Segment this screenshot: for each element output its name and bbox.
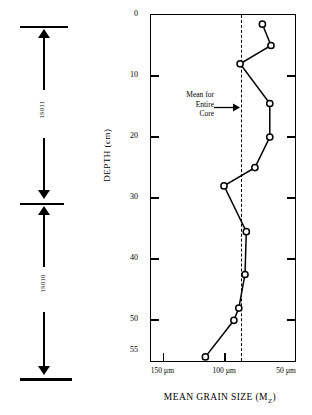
data-point-1 — [268, 42, 274, 48]
data-point-8 — [242, 271, 248, 277]
y-tick-right-20 — [287, 136, 296, 138]
y-tick-30 — [150, 197, 159, 199]
data-point-6 — [221, 183, 227, 189]
x-axis-title-close: ) — [273, 392, 277, 402]
arrowhead-up-lower — [38, 206, 50, 215]
arrowhead-down-lower — [38, 366, 50, 375]
y-axis-title: DEPTH (cm) — [102, 110, 112, 200]
plot-area — [150, 14, 296, 362]
data-point-7 — [243, 229, 249, 235]
core-section-label-lower-text: 1S010 — [39, 274, 46, 292]
data-point-0 — [259, 21, 265, 27]
core-section-label-lower: 1S010 — [12, 280, 72, 287]
x-tick-100 — [224, 353, 226, 362]
data-point-11 — [202, 354, 208, 360]
y-tick-label-20: 20 — [104, 132, 138, 140]
data-series-line — [151, 15, 297, 363]
figure-root: 1S011 1S010 DEPTH (cm) 0102030405055 150… — [0, 0, 312, 415]
arrowhead-down-upper — [38, 190, 50, 199]
scale-cap-top — [20, 26, 68, 28]
y-tick-40 — [150, 258, 159, 260]
y-tick-label-50: 50 — [104, 315, 138, 323]
y-tick-label-0: 0 — [104, 10, 138, 18]
x-axis-title: MEAN GRAIN SIZE (MZ) — [128, 392, 312, 405]
y-tick-right-10 — [287, 75, 296, 77]
y-tick-right-30 — [287, 197, 296, 199]
core-section-label-upper-text: 1S011 — [39, 101, 46, 119]
x-tick-label-150: 150 µm — [132, 366, 192, 375]
scale-cap-bottom — [20, 378, 72, 381]
y-tick-20 — [150, 136, 159, 138]
mean-annotation-line2: Entire — [152, 100, 214, 110]
arrowhead-up-upper — [38, 29, 50, 38]
mean-annotation: Mean for Entire Core — [152, 90, 214, 119]
x-tick-150 — [163, 353, 165, 362]
arrow-shaft-lower-a — [43, 215, 45, 267]
y-tick-right-50 — [287, 319, 296, 321]
data-point-9 — [236, 305, 242, 311]
x-tick-label-50: 50 µm — [256, 366, 312, 375]
data-point-2 — [237, 61, 243, 67]
scale-cap-middle — [20, 203, 64, 205]
y-tick-label-10: 10 — [104, 71, 138, 79]
data-point-3 — [267, 100, 273, 106]
arrow-shaft-lower-b — [43, 312, 45, 366]
arrow-shaft-upper-a — [43, 38, 45, 90]
arrow-shaft-upper-b — [43, 138, 45, 190]
y-tick-10 — [150, 75, 159, 77]
x-tick-label-100: 100 µm — [194, 366, 254, 375]
mean-annotation-arrow — [214, 103, 240, 112]
core-section-scale: 1S011 1S010 — [12, 8, 78, 388]
core-section-label-upper: 1S011 — [12, 106, 72, 113]
y-tick-label-30: 30 — [104, 193, 138, 201]
y-tick-50 — [150, 319, 159, 321]
data-point-4 — [267, 134, 273, 140]
data-point-10 — [231, 317, 237, 323]
y-tick-label-55: 55 — [104, 346, 138, 354]
mean-annotation-line3: Core — [152, 109, 214, 119]
x-axis-title-main: MEAN GRAIN SIZE (M — [164, 392, 268, 402]
y-tick-label-40: 40 — [104, 254, 138, 262]
y-tick-right-40 — [287, 258, 296, 260]
mean-annotation-line1: Mean for — [152, 90, 214, 100]
data-point-5 — [252, 165, 258, 171]
